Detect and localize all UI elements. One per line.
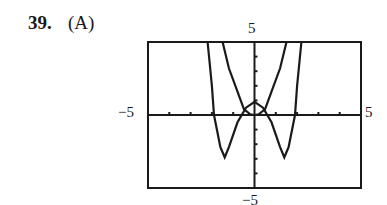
- graph: [0, 0, 387, 205]
